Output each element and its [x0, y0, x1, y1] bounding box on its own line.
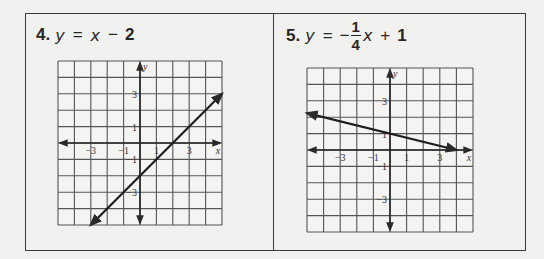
y-tick-label: −1 — [126, 154, 137, 165]
minus-sign: − — [108, 25, 118, 45]
x-tick-label: −3 — [85, 145, 96, 156]
equation-lhs: y — [305, 26, 314, 45]
plus-sign: + — [380, 26, 390, 46]
graph-problem-5: −3−11331−1−3xy — [307, 68, 473, 232]
fraction-denominator: 4 — [352, 36, 360, 52]
x-tick-label: −3 — [335, 152, 346, 163]
y-tick-label: 1 — [382, 129, 387, 140]
problem-number: 4. — [36, 25, 50, 45]
equation-const: 2 — [125, 25, 134, 45]
equation-lhs: y — [55, 26, 64, 45]
problem-4-title: 4. y = x − 2 — [36, 25, 134, 45]
equals-sign: = — [323, 26, 333, 46]
x-axis-label: x — [215, 145, 221, 156]
fraction-numerator: 1 — [351, 19, 361, 36]
x-axis-label: x — [466, 152, 472, 163]
equation-var: x — [91, 26, 100, 45]
x-tick-label: 3 — [187, 145, 192, 156]
y-tick-label: −3 — [376, 194, 387, 205]
equals-sign: = — [73, 25, 83, 45]
problem-number: 5. — [286, 26, 300, 46]
y-tick-label: 1 — [132, 122, 137, 133]
x-tick-label: 1 — [404, 152, 409, 163]
equation-const: 1 — [397, 26, 406, 46]
y-tick-label: 3 — [132, 89, 137, 100]
graph-problem-4: −3−11331−1−3xy — [58, 61, 222, 225]
fraction: 1 4 — [351, 19, 361, 52]
negative-sign: − — [340, 26, 350, 46]
x-tick-label: 1 — [154, 145, 159, 156]
panel-divider — [273, 13, 274, 251]
equation-var: x — [363, 26, 372, 45]
problem-5-title: 5. y = − 1 4 x + 1 — [286, 19, 407, 52]
y-tick-label: −1 — [376, 161, 387, 172]
y-axis-label: y — [142, 61, 148, 72]
y-axis-label: y — [392, 68, 398, 79]
x-tick-label: 3 — [437, 152, 442, 163]
y-tick-label: 3 — [382, 96, 387, 107]
